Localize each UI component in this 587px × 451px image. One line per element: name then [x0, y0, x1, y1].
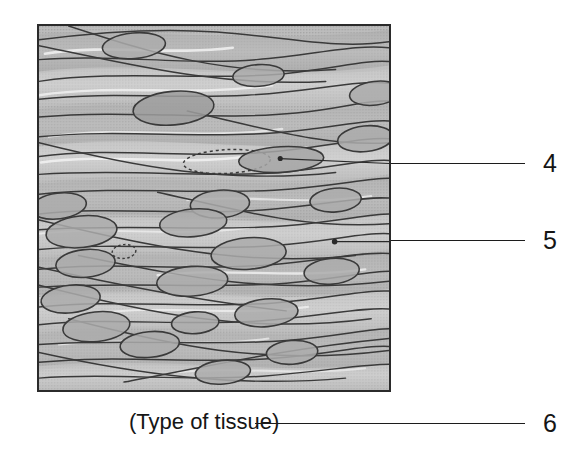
figure-canvas: 4 5 (Type of tissue) 6 [0, 0, 587, 451]
type-of-tissue-caption: (Type of tissue) [129, 410, 279, 434]
callout-4-leader-line [391, 163, 525, 164]
callout-6-leader-line [255, 423, 525, 424]
callout-4-number: 4 [543, 151, 557, 176]
tissue-image-frame [37, 24, 391, 392]
callout-6-number: 6 [543, 411, 557, 436]
callout-5-number: 5 [543, 228, 557, 253]
callout-5-leader-line [391, 240, 525, 241]
smooth-muscle-tissue-drawing [39, 26, 389, 390]
